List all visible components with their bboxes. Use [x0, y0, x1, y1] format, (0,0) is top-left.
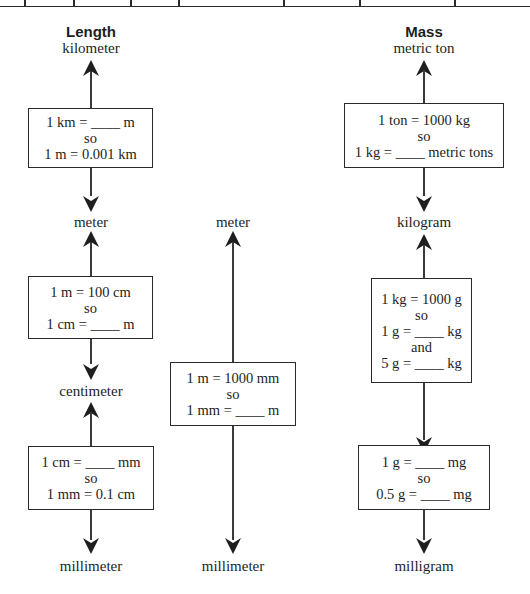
arrow-down-icon: [416, 538, 432, 554]
box-line: 1 mm = 0.1 cm: [47, 486, 135, 502]
box-line: 1 kg = 1000 g: [381, 291, 462, 307]
box-line: so: [227, 386, 240, 402]
connector-line: [90, 339, 92, 364]
box-line: 1 km = ____ m: [46, 114, 135, 130]
arrow-up-icon: [83, 60, 99, 76]
unit-metric-ton: metric ton: [393, 40, 454, 57]
arrow-down-icon: [83, 538, 99, 554]
arrow-down-icon: [225, 538, 241, 554]
box-line: and: [411, 339, 432, 355]
box-line: so: [84, 300, 97, 316]
table-divider: [359, 0, 361, 6]
box-line: 1 m = 1000 mm: [187, 370, 280, 386]
box-line: so: [418, 470, 431, 486]
unit-meter: meter: [74, 214, 108, 231]
table-divider: [454, 0, 456, 6]
table-divider: [24, 0, 26, 6]
unit-millimeter: millimeter: [202, 558, 264, 575]
box-line: so: [418, 128, 431, 144]
box-line: 1 m = 100 cm: [50, 284, 131, 300]
unit-kilogram: kilogram: [397, 214, 451, 231]
box-line: 1 mm = ____ m: [187, 402, 280, 418]
connector-line: [423, 383, 425, 440]
connector-line: [423, 70, 425, 103]
connector-line: [232, 242, 234, 362]
box-line: so: [415, 307, 428, 323]
arrow-down-icon: [83, 364, 99, 380]
unit-kilometer: kilometer: [62, 40, 119, 57]
box-line: 1 g = ____ kg: [381, 323, 462, 339]
unit-millimeter: millimeter: [60, 558, 122, 575]
box-line: 1 ton = 1000 kg: [378, 112, 470, 128]
cm-to-mm-box: 1 cm = ____ mm so 1 mm = 0.1 cm: [28, 446, 154, 510]
unit-milligram: milligram: [394, 558, 453, 575]
table-divider: [178, 0, 180, 6]
connector-line: [423, 245, 425, 278]
connector-line: [423, 510, 425, 540]
connector-line: [90, 510, 92, 540]
connector-line: [90, 168, 92, 196]
table-divider: [73, 0, 75, 6]
ton-to-kg-box: 1 ton = 1000 kg so 1 kg = ____ metric to…: [344, 103, 504, 168]
unit-centimeter: centimeter: [59, 383, 122, 400]
table-divider: [130, 0, 132, 6]
table-bottom-border: [0, 0, 530, 7]
unit-meter: meter: [216, 214, 250, 231]
box-line: 1 kg = ____ metric tons: [355, 144, 493, 160]
box-line: so: [84, 130, 97, 146]
g-to-mg-box: 1 g = ____ mg so 0.5 g = ____ mg: [358, 445, 490, 510]
box-line: so: [85, 470, 98, 486]
table-divider: [283, 0, 285, 6]
box-line: 5 g = ____ kg: [381, 355, 462, 371]
connector-line: [90, 412, 92, 446]
km-to-m-box: 1 km = ____ m so 1 m = 0.001 km: [28, 108, 153, 168]
box-line: 1 g = ____ mg: [382, 454, 467, 470]
connector-line: [90, 242, 92, 276]
arrow-down-icon: [416, 196, 432, 212]
mass-header: Mass: [405, 23, 443, 40]
m-to-cm-box: 1 m = 100 cm so 1 cm = ____ m: [28, 276, 153, 339]
m-to-mm-box: 1 m = 1000 mm so 1 mm = ____ m: [170, 362, 296, 426]
connector-line: [423, 168, 425, 196]
connector-line: [232, 426, 234, 540]
box-line: 1 cm = ____ mm: [41, 454, 140, 470]
box-line: 1 m = 0.001 km: [44, 146, 136, 162]
box-line: 1 cm = ____ m: [47, 316, 135, 332]
length-header: Length: [66, 23, 116, 40]
kg-to-g-box: 1 kg = 1000 g so 1 g = ____ kg and 5 g =…: [371, 278, 472, 383]
box-line: 0.5 g = ____ mg: [376, 486, 472, 502]
arrow-down-icon: [83, 196, 99, 212]
